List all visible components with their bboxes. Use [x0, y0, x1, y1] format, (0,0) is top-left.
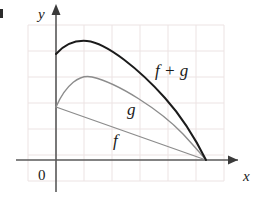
curve-label-g: g	[127, 100, 136, 119]
x-axis-arrowhead	[228, 156, 238, 165]
x-axis-label: x	[242, 168, 250, 184]
y-axis-arrowhead	[52, 4, 61, 15]
figure-container: y x 0 f g f + g	[0, 0, 262, 198]
axes	[16, 4, 238, 192]
curve-label-f: f	[113, 131, 120, 150]
function-graph: y x 0 f g f + g	[0, 0, 262, 198]
y-axis-label: y	[36, 6, 45, 22]
bullet-marker	[0, 9, 3, 18]
curve-label-f-plus-g: f + g	[155, 61, 188, 80]
origin-label: 0	[38, 167, 46, 183]
